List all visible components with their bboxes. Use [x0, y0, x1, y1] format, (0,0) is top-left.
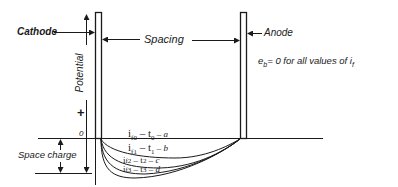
spacing-label: Spacing [144, 34, 184, 45]
curve-b [101, 139, 240, 158]
cathode-electrode [96, 13, 102, 139]
plus-sign: + [77, 106, 85, 119]
cathode-label: Cathode [17, 27, 57, 37]
zero-label: 0 [79, 130, 83, 138]
potential-axis-label: Potential [75, 54, 85, 93]
condition-f-sub: f [352, 61, 354, 68]
curve-b-t: – t [137, 141, 151, 153]
curve-e [101, 139, 240, 178]
curve-b-end: – b [154, 143, 168, 153]
curve-d-t: – t [131, 164, 143, 174]
space-charge-label: Space charge [18, 150, 77, 160]
curve-d [101, 139, 240, 174]
condition-note: eb= 0 for all values of if [258, 56, 354, 68]
diagram-canvas: Cathode Spacing Anode eb= 0 for all valu… [0, 0, 398, 187]
curve-d-end: – d [146, 164, 160, 174]
condition-text: = 0 for all values of [267, 55, 350, 66]
curve-a-t: – t [137, 127, 151, 139]
curve-a-end: – a [154, 129, 168, 139]
anode-electrode [241, 13, 247, 139]
curve-label-d: if3 – t3 – d [123, 165, 160, 174]
curve-c [101, 139, 240, 168]
anode-label: Anode [264, 28, 293, 38]
